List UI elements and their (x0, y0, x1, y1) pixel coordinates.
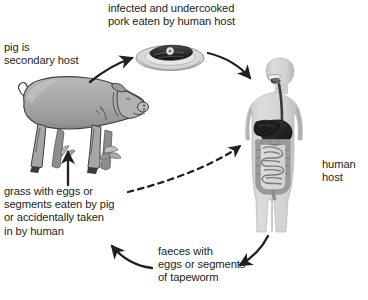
plate-of-pork-illustration (136, 45, 204, 70)
label-human-host: human host (322, 158, 356, 184)
label-pig-host: pig is secondary host (4, 41, 78, 67)
label-infected-pork: infected and undercooked pork eaten by h… (108, 2, 235, 28)
label-faeces: faeces with eggs or segments of tapeworm (158, 245, 245, 285)
label-grass-eggs: grass with eggs or segments eaten by pig… (4, 185, 114, 238)
